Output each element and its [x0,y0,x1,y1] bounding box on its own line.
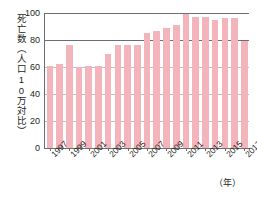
x-tick-mark [89,148,90,151]
bar-slot [162,13,172,148]
bar [66,45,73,148]
x-tick-mark [166,148,167,151]
y-tick-label-0: 0 [18,143,40,153]
bar [115,45,122,148]
x-axis-unit-label: （年） [214,176,241,189]
y-tick-label-60: 60 [18,62,40,72]
x-tick-mark [50,148,51,151]
bar [241,41,248,148]
y-axis-title: 死亡数（人口10万対比） [4,14,26,146]
bar-slot [239,13,249,148]
bar [144,33,151,148]
bar [212,20,219,148]
y-tick-label-80: 80 [18,35,40,45]
bar [76,67,83,148]
bar [192,17,199,148]
bar-slot [181,13,191,148]
x-tick-mark [244,148,245,151]
x-tick-mark [108,148,109,151]
bar [153,31,160,148]
bar-slot [210,13,220,148]
bar [231,18,238,148]
y-tick-label-20: 20 [18,116,40,126]
bar-slot [220,13,230,148]
bar-slot [123,13,133,148]
bar [202,17,209,148]
bar-slot [113,13,123,148]
bar [85,66,92,148]
bar-slot [74,13,84,148]
bar [173,25,180,148]
bar-slot [55,13,65,148]
bar [105,54,112,149]
bar [163,28,170,148]
bar [222,18,229,148]
x-tick-mark [186,148,187,151]
bar-slot [152,13,162,148]
y-tick-label-100: 100 [18,8,40,18]
bar [56,64,63,148]
bar-slot [64,13,74,148]
x-tick-mark [128,148,129,151]
bar-series [45,13,249,148]
bar-slot [171,13,181,148]
bar-slot [45,13,55,148]
bar [183,14,190,148]
bar-slot [103,13,113,148]
bar-slot [191,13,201,148]
y-tick-label-40: 40 [18,89,40,99]
bar-slot [132,13,142,148]
bar [95,66,102,148]
bar [47,66,54,148]
x-tick-mark [147,148,148,151]
x-tick-mark [205,148,206,151]
bar-slot [201,13,211,148]
x-tick-mark [69,148,70,151]
bar-chart: 死亡数（人口10万対比） 100 80 60 40 20 0 199719992… [0,0,257,197]
bar-slot [84,13,94,148]
bar-slot [142,13,152,148]
bar-slot [94,13,104,148]
bar [134,45,141,148]
x-tick-mark [225,148,226,151]
bar [124,45,131,148]
bar-slot [230,13,240,148]
